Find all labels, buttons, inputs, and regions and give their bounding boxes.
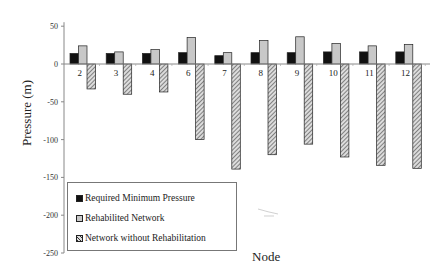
required-minimum-pressure-bar (396, 52, 405, 64)
x-tick-label: 7 (222, 68, 227, 78)
rehabilited-network-bar (115, 52, 124, 64)
x-tick-label: 11 (365, 68, 374, 78)
required-minimum-pressure-bar (287, 53, 296, 64)
rehabilited-network-bar (187, 38, 196, 64)
y-tick-label: -200 (43, 211, 58, 220)
y-tick-label: -150 (43, 173, 58, 182)
required-minimum-pressure-bar (215, 56, 224, 64)
x-tick-label: 12 (401, 68, 410, 78)
network-without-rehabilitation-bar (377, 64, 386, 165)
x-tick-label: 6 (186, 68, 191, 78)
rehabilited-network-bar (296, 37, 305, 64)
hatched-square-icon (76, 235, 83, 242)
required-minimum-pressure-bar (142, 53, 151, 64)
legend-item-rehabilited-network: Rehabilited Network (76, 213, 164, 223)
network-without-rehabilitation-bar (232, 64, 241, 169)
network-without-rehabilitation-bar (304, 64, 313, 144)
x-tick-label: 2 (78, 68, 83, 78)
required-minimum-pressure-bar (360, 52, 369, 64)
rehabilited-network-bar (332, 44, 341, 64)
rehabilited-network-bar (151, 50, 160, 64)
x-tick-label: 10 (329, 68, 339, 78)
required-minimum-pressure-bar (323, 52, 332, 64)
rehabilited-network-bar (223, 53, 232, 64)
rehabilited-network-bar (368, 46, 377, 64)
legend: Required Minimum Pressure Rehabilited Ne… (67, 182, 237, 251)
y-tick-label: 50 (50, 22, 58, 31)
y-tick-label: 0 (54, 60, 58, 69)
y-tick-label: -50 (47, 98, 58, 107)
x-tick-label: 3 (114, 68, 119, 78)
bars (70, 37, 421, 169)
legend-item-network-without-rehabilitation: Network without Rehabilitation (76, 233, 206, 243)
black-square-icon (76, 195, 83, 202)
y-tick-label: -250 (43, 249, 58, 258)
x-tick-label: 8 (259, 68, 264, 78)
y-axis: 500-50-100-150-200-250 (43, 22, 64, 258)
network-without-rehabilitation-bar (159, 64, 168, 92)
legend-item-required-minimum-pressure: Required Minimum Pressure (76, 193, 195, 203)
gray-square-icon (76, 215, 83, 222)
legend-label: Network without Rehabilitation (85, 233, 206, 243)
stray-pen-mark (258, 209, 278, 216)
network-without-rehabilitation-bar (87, 64, 96, 89)
rehabilited-network-bar (260, 41, 269, 64)
x-tick-label: 4 (150, 68, 155, 78)
legend-label: Rehabilited Network (85, 213, 164, 223)
required-minimum-pressure-bar (251, 53, 260, 64)
y-tick-label: -100 (43, 136, 58, 145)
legend-label: Required Minimum Pressure (85, 193, 195, 203)
required-minimum-pressure-bar (70, 53, 79, 64)
y-axis-title: Pressure (m) (19, 80, 34, 146)
required-minimum-pressure-bar (106, 53, 115, 64)
rehabilited-network-bar (404, 44, 413, 64)
network-without-rehabilitation-bar (268, 64, 277, 155)
required-minimum-pressure-bar (179, 53, 188, 64)
network-without-rehabilitation-bar (196, 64, 205, 140)
network-without-rehabilitation-bar (340, 64, 349, 157)
network-without-rehabilitation-bar (123, 64, 132, 94)
x-axis: 2346789101112 (64, 64, 430, 78)
x-axis-title: Node (252, 249, 280, 265)
rehabilited-network-bar (79, 46, 88, 64)
network-without-rehabilitation-bar (413, 64, 422, 168)
x-tick-label: 9 (295, 68, 300, 78)
